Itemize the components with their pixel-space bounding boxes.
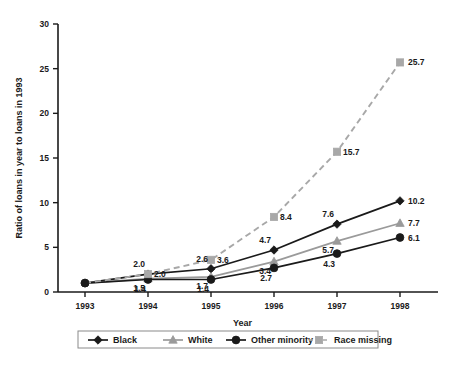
marker-circle	[333, 250, 341, 258]
marker-diamond	[94, 336, 102, 344]
x-tick-label: 1998	[391, 301, 410, 311]
marker-square	[333, 148, 340, 155]
marker-circle	[207, 276, 215, 284]
chart-figure: 051015202530199319941995199619971998Rati…	[0, 0, 453, 365]
y-tick-label: 15	[40, 153, 50, 163]
data-label: 4.3	[323, 259, 335, 269]
data-label: 2.0	[133, 259, 145, 269]
chart-canvas: 051015202530199319941995199619971998Rati…	[0, 0, 453, 365]
data-label: 15.7	[343, 147, 360, 157]
data-label: 25.7	[408, 57, 425, 67]
data-label: 3.6	[217, 255, 229, 265]
legend-item-white[interactable]: White	[163, 335, 213, 345]
data-label: 4.7	[259, 235, 271, 245]
data-label: 8.4	[280, 212, 292, 222]
legend-label: White	[188, 335, 213, 345]
marker-square	[396, 59, 403, 66]
legend-label: Race missing	[334, 335, 392, 345]
y-tick-label: 30	[40, 19, 50, 29]
y-tick-label: 5	[44, 242, 49, 252]
data-label: 5.7	[322, 245, 334, 255]
marker-diamond	[333, 220, 341, 228]
marker-square	[207, 256, 214, 263]
series-other-minority	[81, 234, 404, 287]
data-label: 10.2	[408, 196, 425, 206]
x-axis-title: Year	[233, 318, 253, 328]
marker-triangle	[396, 219, 404, 227]
data-label: 6.1	[408, 233, 420, 243]
legend-item-other-minority[interactable]: Other minority	[226, 335, 313, 345]
data-label: 7.6	[322, 209, 334, 219]
x-tick-label: 1993	[76, 301, 95, 311]
y-tick-label: 0	[44, 287, 49, 297]
legend-item-black[interactable]: Black	[88, 335, 138, 345]
data-series	[81, 59, 404, 287]
legend-item-race-missing[interactable]: Race missing	[309, 335, 392, 345]
y-axis-title: Ratio of loans in year to loans in 1993	[14, 77, 24, 238]
data-label: 1.4	[134, 284, 146, 294]
series-line	[85, 201, 400, 283]
marker-diamond	[270, 246, 278, 254]
data-label: 2.6	[196, 254, 208, 264]
axes: 051015202530199319941995199619971998Rati…	[14, 19, 438, 328]
data-label: 2.7	[260, 273, 272, 283]
x-tick-label: 1997	[328, 301, 347, 311]
y-tick-label: 20	[40, 108, 50, 118]
y-tick-label: 25	[40, 64, 50, 74]
chart-legend: BlackWhiteOther minorityRace missing	[78, 331, 392, 348]
legend-label: Black	[113, 335, 138, 345]
marker-square	[270, 213, 277, 220]
marker-circle	[232, 336, 240, 344]
data-labels: 2.02.64.77.610.21.51.73.45.77.71.41.42.7…	[133, 57, 425, 294]
marker-square	[315, 336, 322, 343]
marker-circle	[270, 264, 278, 272]
marker-circle	[396, 234, 404, 242]
legend-label: Other minority	[251, 335, 313, 345]
marker-circle	[81, 279, 89, 287]
marker-diamond	[396, 197, 404, 205]
data-label: 7.7	[408, 218, 420, 228]
x-tick-label: 1995	[202, 301, 221, 311]
marker-square	[144, 271, 151, 278]
data-label: 2.0	[154, 269, 166, 279]
y-tick-label: 10	[40, 198, 50, 208]
x-tick-label: 1996	[265, 301, 284, 311]
x-tick-label: 1994	[139, 301, 158, 311]
series-black	[85, 197, 404, 283]
data-label: 1.4	[197, 284, 209, 294]
